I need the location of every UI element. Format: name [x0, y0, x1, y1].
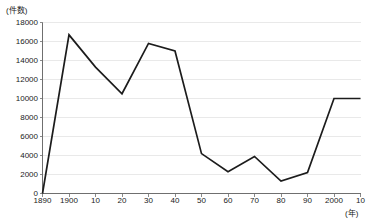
- axis-tick-marks: [40, 23, 361, 197]
- line-chart: (件数) (年) 0200040006000800010000120001400…: [0, 0, 378, 223]
- plot-area: [0, 0, 378, 223]
- data-series-line: [43, 35, 361, 194]
